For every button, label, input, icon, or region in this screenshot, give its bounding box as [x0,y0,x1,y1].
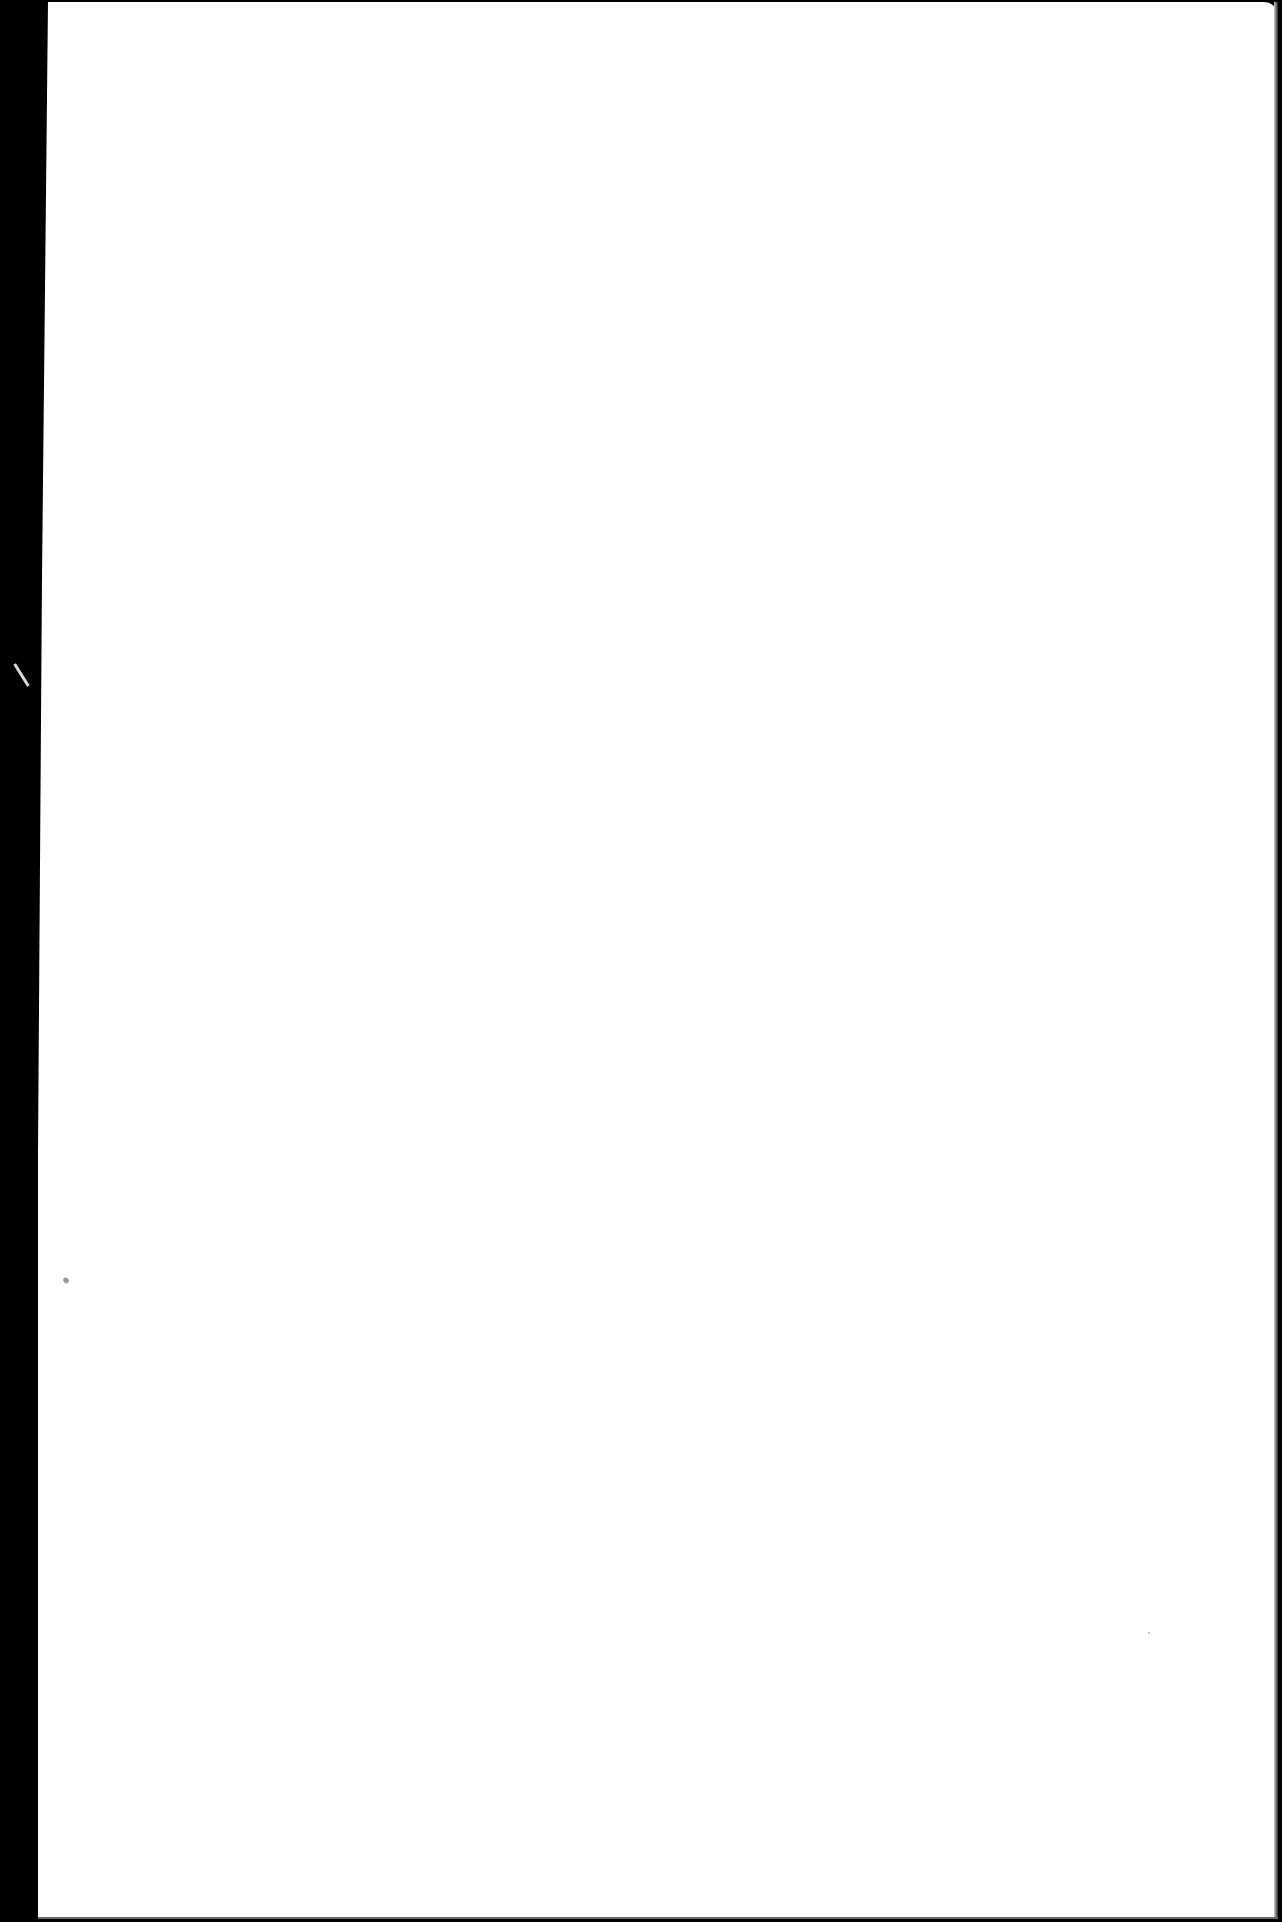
dust-speck [1278,42,1281,45]
blank-paper-page [38,2,1278,1919]
scanned-document [0,0,1282,1922]
dust-speck [62,1277,70,1285]
paper-bottom-edge [38,1917,1278,1919]
scan-artifact-scratch [13,663,29,687]
dust-speck [1148,1632,1150,1634]
paper-right-edge [1274,2,1278,1919]
